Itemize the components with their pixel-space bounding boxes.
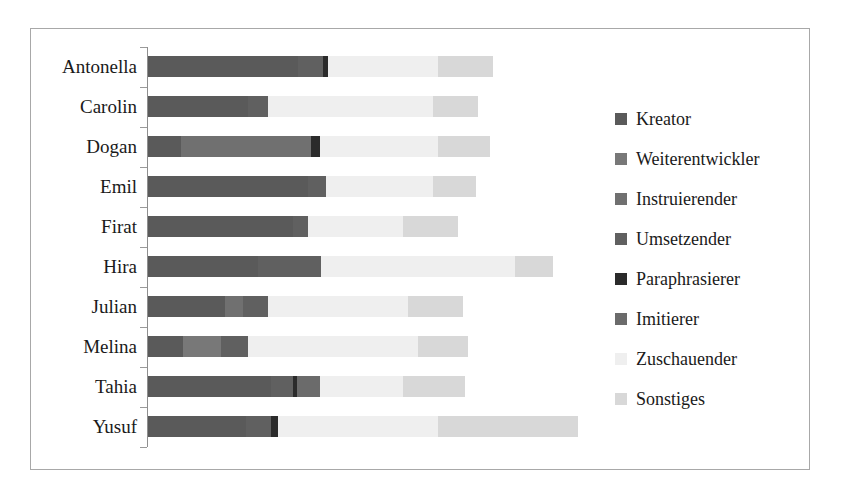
- bar-segment: [328, 56, 438, 77]
- chart-legend: KreatorWeiterentwicklerInstruierenderUms…: [615, 99, 805, 419]
- legend-item-zuschauender[interactable]: Zuschauender: [615, 339, 805, 379]
- bar-segment: [438, 136, 490, 157]
- stacked-bar: [148, 136, 490, 157]
- bar-segment: [320, 376, 403, 397]
- bar-segment: [438, 56, 493, 77]
- legend-label: Instruierender: [636, 189, 737, 210]
- bar-segment: [148, 296, 225, 317]
- stacked-bar: [148, 256, 553, 277]
- bar-segment: [268, 296, 408, 317]
- legend-swatch-icon: [615, 193, 627, 205]
- bar-segment: [148, 376, 271, 397]
- stacked-bar: [148, 416, 578, 437]
- legend-swatch-icon: [615, 113, 627, 125]
- legend-label: Umsetzender: [636, 229, 731, 250]
- bar-segment: [148, 416, 246, 437]
- bar-segment: [148, 96, 248, 117]
- bar-segment: [148, 256, 258, 277]
- legend-label: Weiterentwickler: [636, 149, 760, 170]
- bar-segment: [321, 256, 515, 277]
- bar-segment: [438, 416, 578, 437]
- category-label: Antonella: [37, 47, 147, 87]
- bar-segment: [225, 296, 243, 317]
- bar-segment: [221, 336, 248, 357]
- category-label: Firat: [37, 207, 147, 247]
- legend-label: Zuschauender: [636, 349, 737, 370]
- bar-segment: [515, 256, 553, 277]
- category-label: Melina: [37, 327, 147, 367]
- bar-segment: [243, 296, 268, 317]
- chart-frame: AntonellaCarolinDoganEmilFiratHiraJulian…: [30, 28, 810, 470]
- legend-label: Kreator: [636, 109, 691, 130]
- bar-segment: [148, 176, 308, 197]
- legend-item-paraphrasierer[interactable]: Paraphrasierer: [615, 259, 805, 299]
- stacked-bar: [148, 176, 476, 197]
- bar-segment: [148, 56, 298, 77]
- bar-segment: [298, 56, 323, 77]
- bar-segment: [308, 216, 403, 237]
- stacked-bar: [148, 296, 463, 317]
- legend-swatch-icon: [615, 153, 627, 165]
- category-label: Emil: [37, 167, 147, 207]
- category-label: Carolin: [37, 87, 147, 127]
- bar-segment: [271, 416, 278, 437]
- bar-segment: [403, 376, 465, 397]
- category-label: Hira: [37, 247, 147, 287]
- legend-swatch-icon: [615, 273, 627, 285]
- legend-label: Paraphrasierer: [636, 269, 740, 290]
- bar-segment: [248, 96, 268, 117]
- bar-segment: [408, 296, 463, 317]
- legend-item-instruierender[interactable]: Instruierender: [615, 179, 805, 219]
- bar-segment: [181, 136, 311, 157]
- bar-segment: [271, 376, 293, 397]
- stacked-bar: [148, 376, 465, 397]
- stacked-bar: [148, 216, 458, 237]
- bar-segment: [148, 336, 183, 357]
- category-label: Yusuf: [37, 407, 147, 447]
- bar-segment: [183, 336, 221, 357]
- stacked-bar: [148, 96, 478, 117]
- stacked-bar: [148, 56, 493, 77]
- legend-item-umsetzender[interactable]: Umsetzender: [615, 219, 805, 259]
- bar-segment: [268, 96, 433, 117]
- bar-segment: [418, 336, 468, 357]
- category-label: Dogan: [37, 127, 147, 167]
- legend-item-sonstiges[interactable]: Sonstiges: [615, 379, 805, 419]
- legend-label: Sonstiges: [636, 389, 705, 410]
- bar-segment: [320, 136, 438, 157]
- legend-item-imitierer[interactable]: Imitierer: [615, 299, 805, 339]
- bar-segment: [326, 176, 433, 197]
- bar-segment: [311, 136, 320, 157]
- legend-item-kreator[interactable]: Kreator: [615, 99, 805, 139]
- bar-segment: [293, 216, 308, 237]
- bar-segment: [278, 416, 438, 437]
- bar-segment: [297, 376, 320, 397]
- bar-segment: [148, 136, 181, 157]
- bar-segment: [433, 176, 476, 197]
- bar-segment: [433, 96, 478, 117]
- y-axis-tick: [140, 447, 147, 448]
- bar-segment: [258, 256, 321, 277]
- stacked-bar: [148, 336, 468, 357]
- bar-segment: [148, 216, 293, 237]
- legend-label: Imitierer: [636, 309, 699, 330]
- legend-item-weiterentwickler[interactable]: Weiterentwickler: [615, 139, 805, 179]
- category-label: Tahia: [37, 367, 147, 407]
- bar-segment: [246, 416, 271, 437]
- bar-segment: [308, 176, 326, 197]
- legend-swatch-icon: [615, 313, 627, 325]
- bar-segment: [403, 216, 458, 237]
- category-label: Julian: [37, 287, 147, 327]
- legend-swatch-icon: [615, 353, 627, 365]
- legend-swatch-icon: [615, 233, 627, 245]
- legend-swatch-icon: [615, 393, 627, 405]
- bar-segment: [248, 336, 418, 357]
